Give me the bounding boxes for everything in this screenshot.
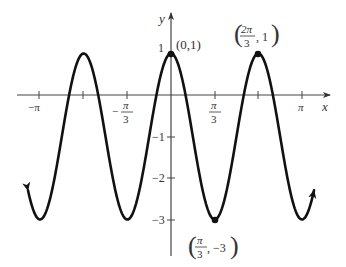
svg-text:(: ( (188, 231, 197, 260)
svg-text:π: π (123, 99, 129, 111)
y-axis-label: y (157, 11, 165, 26)
svg-text:2π: 2π (241, 23, 253, 35)
svg-text:3: 3 (197, 248, 203, 260)
svg-text:3: 3 (123, 113, 129, 125)
annotation-2pi3-1: ( 2π 3 , 1 ) (234, 19, 280, 49)
svg-text:π: π (211, 99, 217, 111)
svg-text:π: π (197, 234, 203, 246)
x-tick-label-pi-over-3: π 3 (209, 99, 221, 125)
point-2pi3-1 (255, 51, 262, 58)
svg-text:3: 3 (211, 113, 217, 125)
svg-text:, 1: , 1 (256, 30, 268, 44)
annotation-0-1: (0,1) (176, 37, 201, 52)
chart: x y −π − π 3 π 3 π 1 −1 −2 −3 (0,1) ( 2π… (0, 0, 346, 267)
annotation-pi3-m3: ( π 3 , −3 ) (188, 231, 239, 260)
svg-text:3: 3 (244, 37, 250, 49)
y-tick-label-m2: −2 (152, 171, 165, 185)
point-0-1 (168, 51, 175, 58)
svg-text:−: − (112, 105, 118, 117)
point-pi3-m3 (212, 217, 219, 224)
y-tick-label-1: 1 (158, 41, 164, 55)
x-tick-label-pi: π (298, 101, 304, 113)
x-tick-label-neg-pi-over-3: − π 3 (112, 99, 133, 125)
y-tick-label-m3: −3 (152, 213, 165, 227)
svg-text:): ) (271, 19, 280, 48)
svg-text:, −3: , −3 (207, 241, 226, 255)
svg-text:): ) (230, 231, 239, 260)
y-tick-label-m1: −1 (152, 130, 165, 144)
x-tick-label-neg-pi: −π (28, 101, 40, 113)
x-axis-label: x (321, 99, 328, 114)
